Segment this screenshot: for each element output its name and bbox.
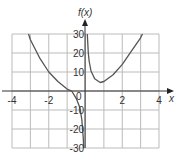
y-tick-label: 30 bbox=[73, 29, 85, 40]
x-tick-label: 4 bbox=[156, 95, 162, 106]
curve-branch bbox=[87, 34, 142, 83]
x-tick-label: -4 bbox=[8, 95, 17, 106]
function-graph: -4-224302010-10-20-30 f(x) x 0 bbox=[0, 0, 180, 156]
y-tick-label: 10 bbox=[73, 67, 85, 78]
x-axis-label: x bbox=[168, 93, 175, 104]
y-tick-label: -20 bbox=[70, 124, 85, 135]
y-tick-label: 20 bbox=[73, 48, 85, 59]
origin-label: 0 bbox=[76, 91, 82, 102]
y-axis-label: f(x) bbox=[78, 7, 92, 18]
y-tick-label: -10 bbox=[70, 105, 85, 116]
x-tick-label: -2 bbox=[44, 95, 53, 106]
y-axis-arrow-icon bbox=[82, 19, 88, 26]
x-tick-label: 2 bbox=[119, 95, 125, 106]
y-tick-label: -30 bbox=[70, 143, 85, 154]
